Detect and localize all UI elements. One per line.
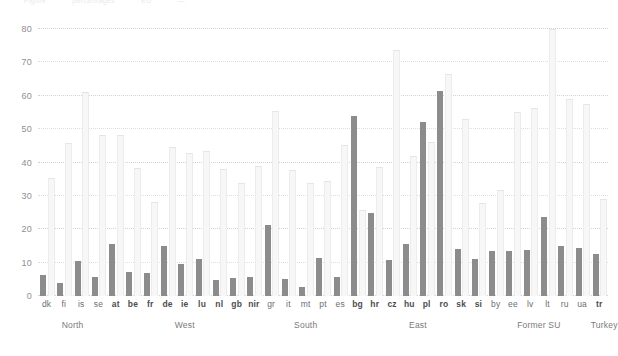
bar-foreground xyxy=(403,244,409,296)
group-label: West xyxy=(107,320,262,330)
bar-foreground xyxy=(40,275,46,296)
x-tick-label: ee xyxy=(504,299,521,309)
bar-background xyxy=(462,119,469,296)
bar-foreground xyxy=(213,280,219,296)
y-tick-label: 30 xyxy=(6,191,32,201)
bar-slot xyxy=(90,29,107,296)
x-tick-label: sk xyxy=(453,299,470,309)
bar-background xyxy=(289,170,296,296)
bar-background xyxy=(324,181,331,296)
bar-foreground xyxy=(144,273,150,296)
x-tick-label: is xyxy=(73,299,90,309)
bar-background xyxy=(566,99,573,296)
bar-foreground xyxy=(178,264,184,296)
bar-foreground xyxy=(247,277,253,296)
group-label: South xyxy=(263,320,349,330)
bar-slot xyxy=(211,29,228,296)
plot-area xyxy=(38,29,608,296)
cutoff-title-strip: FigurepercentagesEU— xyxy=(24,0,211,5)
x-tick-label: gb xyxy=(228,299,245,309)
bar-slot xyxy=(107,29,124,296)
title-fragment: percentages xyxy=(72,0,115,4)
bar-slot xyxy=(591,29,608,296)
bar-foreground xyxy=(576,248,582,296)
bar-foreground xyxy=(299,287,305,296)
bar-background xyxy=(151,202,158,296)
bar-foreground xyxy=(420,122,426,296)
group-label: East xyxy=(349,320,487,330)
x-tick-label: pt xyxy=(314,299,331,309)
x-tick-label: ua xyxy=(573,299,590,309)
bar-slot xyxy=(55,29,72,296)
bar-slot xyxy=(280,29,297,296)
bar-slot xyxy=(228,29,245,296)
bar-foreground xyxy=(75,261,81,296)
bar-slot xyxy=(487,29,504,296)
bar-background xyxy=(169,147,176,296)
bar-group-container xyxy=(38,29,608,296)
bar-background xyxy=(307,183,314,296)
title-fragment: Figure xyxy=(24,0,46,4)
y-tick-label: 10 xyxy=(6,258,32,268)
bar-foreground xyxy=(161,246,167,296)
bar-background xyxy=(99,135,106,296)
bar-foreground xyxy=(334,277,340,296)
bar-background xyxy=(549,29,556,296)
bar-background xyxy=(393,50,400,296)
bar-slot xyxy=(522,29,539,296)
x-tick-label: pl xyxy=(418,299,435,309)
bar-background xyxy=(514,112,521,296)
group-label: Former SU xyxy=(487,320,591,330)
bar-background xyxy=(531,108,538,296)
bar-foreground xyxy=(92,277,98,296)
bar-foreground xyxy=(368,213,374,296)
bar-slot xyxy=(504,29,521,296)
bar-foreground xyxy=(489,251,495,296)
bar-background xyxy=(255,166,262,296)
bar-slot xyxy=(435,29,452,296)
x-tick-label: nl xyxy=(211,299,228,309)
bar-background xyxy=(479,203,486,296)
bar-slot xyxy=(159,29,176,296)
bar-foreground xyxy=(437,91,443,296)
bar-slot xyxy=(263,29,280,296)
x-tick-label: de xyxy=(159,299,176,309)
x-tick-label: hr xyxy=(366,299,383,309)
x-axis-group-labels: NorthWestSouthEastFormer SUTurkey xyxy=(38,320,608,334)
bar-slot xyxy=(245,29,262,296)
x-tick-label: gr xyxy=(263,299,280,309)
y-tick-label: 70 xyxy=(6,57,32,67)
bar-slot xyxy=(453,29,470,296)
bar-slot xyxy=(38,29,55,296)
bar-foreground xyxy=(558,246,564,296)
bar-slot xyxy=(176,29,193,296)
y-tick-label: 20 xyxy=(6,224,32,234)
bar-slot xyxy=(470,29,487,296)
bar-slot xyxy=(193,29,210,296)
bar-background xyxy=(220,169,227,296)
x-tick-label: bg xyxy=(349,299,366,309)
bar-background xyxy=(117,135,124,296)
bar-slot xyxy=(401,29,418,296)
bar-background xyxy=(428,142,435,296)
bar-slot xyxy=(124,29,141,296)
bar-foreground xyxy=(386,260,392,296)
bar-foreground xyxy=(351,116,357,296)
x-tick-label: hu xyxy=(401,299,418,309)
x-tick-label: ie xyxy=(176,299,193,309)
y-tick-label: 0 xyxy=(6,291,32,301)
bar-background xyxy=(359,210,366,296)
y-tick-label: 40 xyxy=(6,158,32,168)
x-axis-labels: dkfiisseatbefrdeielunlgbnirgritmtptesbgh… xyxy=(38,299,608,313)
x-tick-label: tr xyxy=(591,299,608,309)
bar-background xyxy=(48,178,55,296)
bar-background xyxy=(134,168,141,296)
x-tick-label: lt xyxy=(539,299,556,309)
bar-slot xyxy=(73,29,90,296)
y-tick-label: 50 xyxy=(6,124,32,134)
bar-foreground xyxy=(126,272,132,296)
bar-slot xyxy=(539,29,556,296)
bar-foreground xyxy=(316,258,322,296)
x-tick-label: lv xyxy=(522,299,539,309)
bar-background xyxy=(410,156,417,297)
